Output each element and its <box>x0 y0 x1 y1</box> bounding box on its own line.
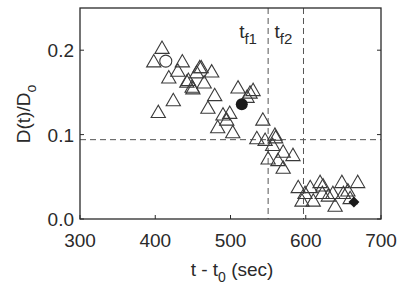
label-tf1: tf1 <box>239 21 257 47</box>
x-tick-label: 400 <box>139 230 171 251</box>
triangle-marker <box>162 71 176 83</box>
data-points <box>147 41 365 211</box>
y-axis-label-main: D(t)/D <box>13 93 34 144</box>
y-tick-label: 0.0 <box>48 209 74 230</box>
y-tick-labels: 0.00.10.2 <box>48 40 74 230</box>
triangle-marker <box>155 41 169 53</box>
y-axis-label: D(t)/Do <box>13 85 39 144</box>
triangle-marker <box>211 120 225 132</box>
x-tick-label: 300 <box>64 230 96 251</box>
triangle-marker <box>166 93 180 105</box>
label-tf2: tf2 <box>274 21 292 47</box>
triangle-marker <box>147 55 161 67</box>
triangle-marker <box>171 64 185 76</box>
triangle-marker <box>151 105 165 117</box>
triangle-marker <box>201 101 215 113</box>
triangle-marker <box>231 81 245 93</box>
x-axis-label: t - t0 (sec) <box>191 259 274 285</box>
x-axis-label-unit: (sec) <box>226 259 274 280</box>
y-tick-label: 0.1 <box>48 125 74 146</box>
scatter-chart: 300400500600700 0.00.10.2 tf1tf2 t - t0 … <box>0 0 407 295</box>
triangle-marker <box>185 80 199 92</box>
triangle-marker <box>286 148 300 160</box>
triangle-marker <box>208 88 222 100</box>
axis-ticks <box>80 50 381 219</box>
triangle-marker <box>181 73 195 85</box>
x-tick-label: 600 <box>290 230 322 251</box>
x-axis-label-main: t - t <box>191 259 219 280</box>
x-tick-labels: 300400500600700 <box>64 230 397 251</box>
x-axis-label-subscript: 0 <box>218 269 226 285</box>
y-tick-label: 0.2 <box>48 40 74 61</box>
open-circle-marker <box>160 55 172 67</box>
x-tick-label: 500 <box>215 230 247 251</box>
y-axis-label-subscript: o <box>23 85 39 93</box>
triangle-marker <box>250 131 264 143</box>
triangle-marker <box>351 175 365 187</box>
vertical-line-labels: tf1tf2 <box>239 21 292 47</box>
filled-circle-marker <box>236 98 248 110</box>
x-tick-label: 700 <box>365 230 397 251</box>
triangle-marker <box>226 125 240 137</box>
